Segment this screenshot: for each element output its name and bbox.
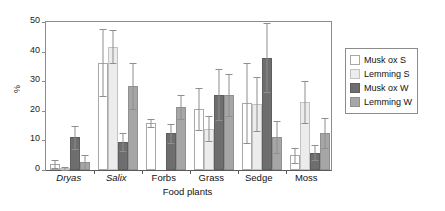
legend-item-musk-ox-s[interactable]: Musk ox S [350,53,412,67]
bar-slot [272,22,282,170]
error-bar-cap-bottom [254,131,261,132]
y-axis-tick-labels: 50403020100 [22,0,40,211]
x-axis-title: Food plants [45,186,330,197]
error-bar [229,74,230,115]
error-bar [151,119,152,127]
bar[interactable] [108,47,118,170]
error-bar [123,133,124,151]
bar-slot [290,22,300,170]
bar-slot [310,22,320,170]
error-bar-cap-bottom [216,120,223,121]
x-tick-label-grass: Grass [188,172,236,186]
y-tick-label: 20 [24,105,40,114]
error-bar-cap-top [100,29,107,30]
error-bar-cap-bottom [226,116,233,117]
error-bar-cap-bottom [110,63,117,64]
bar-group-moss [286,22,334,170]
error-bar [199,88,200,129]
error-bar [277,121,278,154]
x-tick-label-forbs: Forbs [140,172,188,186]
bar-slot [300,22,310,170]
bar-group-dryas [46,22,94,170]
error-bar [181,95,182,119]
error-bar-cap-bottom [100,96,107,97]
legend-item-lemming-w[interactable]: Lemming W [350,95,412,109]
error-bar-cap-bottom [196,130,203,131]
error-bar-cap-top [130,63,137,64]
bar-slot [262,22,272,170]
legend-item-label: Musk ox S [364,55,406,65]
error-bar-cap-bottom [264,92,271,93]
y-tick-label: 0 [24,164,40,173]
error-bar [171,124,172,144]
error-bar [315,145,316,160]
bar-slot [50,22,60,170]
error-bar [55,160,56,168]
error-bar-cap-top [216,69,223,70]
bar-slot [128,22,138,170]
error-bar-cap-bottom [72,149,79,150]
error-bar [305,81,306,123]
bar-slot [242,22,252,170]
legend-item-label: Lemming W [364,97,412,107]
error-bar [85,155,86,168]
error-bar-cap-top [120,133,127,134]
error-bar [219,69,220,119]
error-bar-cap-bottom [274,153,281,154]
error-bar-cap-bottom [178,119,185,120]
error-bar [267,23,268,93]
error-bar-cap-top [82,155,89,156]
error-bar [133,63,134,109]
error-bar [103,29,104,96]
legend-swatch-icon [350,55,360,65]
error-bar-cap-top [62,167,69,168]
error-bar-cap-bottom [206,141,213,142]
error-bar [113,30,114,63]
bar-slot [194,22,204,170]
bar[interactable] [146,123,156,170]
y-tick-label: 40 [24,46,40,55]
legend-swatch-icon [350,83,360,93]
bar-groups [46,22,331,170]
error-bar-cap-bottom [168,143,175,144]
error-bar [209,116,210,141]
bar-slot [252,22,262,170]
error-bar-cap-top [72,126,79,127]
plot-area [45,21,332,171]
error-bar-cap-top [312,145,319,146]
error-bar-cap-top [110,30,117,31]
error-bar [75,126,76,150]
error-bar-cap-bottom [148,127,155,128]
legend-swatch-icon [350,97,360,107]
error-bar [295,148,296,163]
bar-slot [80,22,90,170]
legend-item-musk-ox-w[interactable]: Musk ox W [350,81,412,95]
error-bar-cap-top [206,116,213,117]
error-bar-cap-bottom [322,148,329,149]
error-bar-cap-bottom [302,123,309,124]
error-bar-cap-bottom [244,143,251,144]
error-bar-cap-top [302,81,309,82]
error-bar-cap-top [264,23,271,24]
error-bar [257,77,258,130]
error-bar [247,63,248,143]
legend-item-label: Musk ox W [364,83,409,93]
bar-slot [70,22,80,170]
y-tick-mark [42,170,46,171]
error-bar-cap-top [274,121,281,122]
bar-group-grass [190,22,238,170]
bar-slot [176,22,186,170]
error-bar-cap-top [178,95,185,96]
error-bar-cap-top [52,160,59,161]
error-bar-cap-top [148,119,155,120]
bar-slot [204,22,214,170]
error-bar-cap-bottom [130,109,137,110]
bar-slot [320,22,330,170]
error-bar-cap-top [244,63,251,64]
y-tick-label: 30 [24,75,40,84]
bar-slot [98,22,108,170]
error-bar-cap-bottom [62,170,69,171]
legend-item-label: Lemming S [364,69,410,79]
legend-item-lemming-s[interactable]: Lemming S [350,67,412,81]
error-bar-cap-bottom [52,168,59,169]
